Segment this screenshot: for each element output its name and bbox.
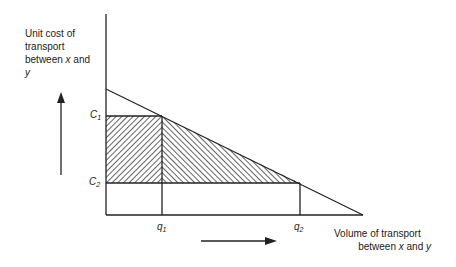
c2-label: C2 (89, 175, 100, 191)
q2-sub: 2 (300, 226, 304, 233)
x-axis-label-line2: between x and y (334, 240, 431, 253)
y-axis-label-line1: Unit cost of (25, 27, 90, 40)
c1-label: C1 (90, 108, 101, 124)
x-axis-label-line1: Volume of transport (334, 227, 431, 240)
q1-sub: 1 (163, 226, 167, 233)
q2-label: q2 (294, 220, 303, 236)
c1-sub: 1 (97, 114, 101, 121)
text: and (71, 54, 90, 65)
y-axis-label-line3: between x and (25, 53, 90, 66)
y-axis-label-line4: y (25, 66, 90, 79)
c2-sub: 2 (96, 181, 100, 188)
text: and (404, 241, 426, 252)
y-axis-label: Unit cost of transport between x and y (25, 27, 90, 79)
hatched-rectangle-area (106, 116, 162, 183)
text: between (358, 241, 399, 252)
y-axis-label-line2: transport (25, 40, 90, 53)
q1-label: q1 (157, 220, 166, 236)
up-arrow-icon (57, 92, 65, 175)
variable-y: y (426, 241, 431, 252)
text: between (25, 54, 66, 65)
right-arrow-icon (201, 237, 277, 245)
x-axis-label: Volume of transport between x and y (334, 227, 431, 253)
